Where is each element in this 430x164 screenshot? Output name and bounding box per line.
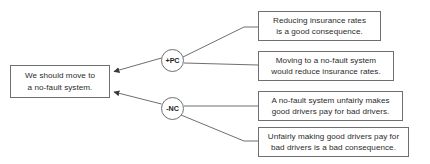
reason-text-1: Reducing insurance rates is a good conse… xyxy=(273,15,366,37)
edge-con-to-reason-4 xyxy=(181,115,244,141)
pro-relation-label: +PC xyxy=(166,56,180,65)
edge-con-to-claim xyxy=(114,92,162,104)
pro-relation-node[interactable]: +PC xyxy=(161,49,184,72)
edge-pro-to-claim xyxy=(114,58,162,72)
edge-pro-to-reason-1 xyxy=(183,27,244,57)
claim-text: We should move to a no-fault system. xyxy=(25,70,95,92)
reason-text-3: A no-fault system unfairly makes good dr… xyxy=(271,95,389,117)
reason-box-2[interactable]: Moving to a no-fault system would reduce… xyxy=(258,51,394,81)
reason-box-1[interactable]: Reducing insurance rates is a good conse… xyxy=(258,11,381,41)
reason-text-2: Moving to a no-fault system would reduce… xyxy=(271,55,380,77)
reason-box-4[interactable]: Unfairly making good drivers pay for bad… xyxy=(258,127,409,157)
con-relation-label: -NC xyxy=(166,104,178,113)
reason-box-3[interactable]: A no-fault system unfairly makes good dr… xyxy=(258,91,403,121)
edge-pro-to-reason-2 xyxy=(184,63,258,65)
reason-text-4: Unfairly making good drivers pay for bad… xyxy=(268,131,399,153)
con-relation-node[interactable]: -NC xyxy=(161,97,184,120)
argument-map-canvas: We should move to a no-fault system. +PC… xyxy=(0,0,430,164)
claim-box[interactable]: We should move to a no-fault system. xyxy=(10,65,110,98)
